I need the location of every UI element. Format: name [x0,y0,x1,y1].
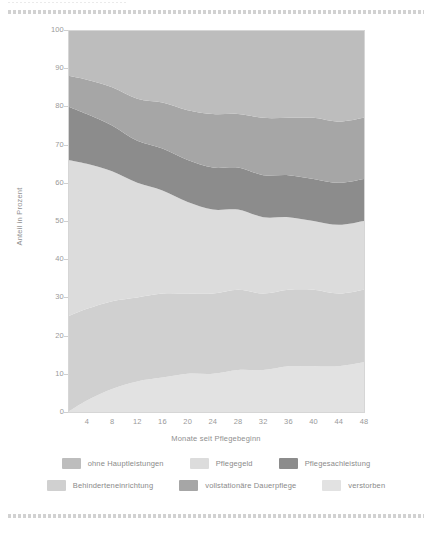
legend-swatch-icon [322,480,341,491]
stacked-area-svg [68,30,364,412]
legend-row-2: Behinderteneinrichtungvollstationäre Dau… [0,480,432,491]
legend-row-1: ohne HauptleistungenPflegegeldPflegesach… [0,458,432,469]
legend-swatch-icon [62,458,81,469]
x-tick-label: 48 [360,418,369,426]
x-tick-label: 20 [183,418,192,426]
y-tick-label: 40 [32,255,64,263]
axis-bottom-line [68,412,364,413]
legend-label: verstorben [348,481,385,490]
y-tick-mark [64,374,68,375]
y-tick-label: 20 [32,332,64,340]
legend-item[interactable]: ohne Hauptleistungen [62,458,164,469]
x-tick-label: 24 [208,418,217,426]
legend-swatch-icon [190,458,209,469]
axis-right-line [364,30,365,413]
legend-label: Pflegesachleistung [305,459,371,468]
y-tick-label: 0 [32,408,64,416]
legend-label: Behinderteneinrichtung [73,481,153,490]
y-tick-label: 10 [32,370,64,378]
legend-swatch-icon [47,480,66,491]
y-tick-mark [64,259,68,260]
legend-label: Pflegegeld [216,459,253,468]
plot-region [68,30,364,412]
y-tick-label: 30 [32,294,64,302]
y-tick-mark [64,412,68,413]
y-tick-label: 60 [32,179,64,187]
x-tick-label: 36 [284,418,293,426]
x-tick-label: 28 [234,418,243,426]
y-tick-label: 50 [32,217,64,225]
decorative-rule-top [8,10,424,14]
y-tick-mark [64,68,68,69]
axis-top-line [68,30,364,31]
y-axis-label: Anteil in Prozent [15,162,24,272]
x-tick-label: 40 [309,418,318,426]
y-tick-label: 70 [32,141,64,149]
legend-swatch-icon [179,480,198,491]
decorative-ghost-line [8,2,128,3]
legend-item[interactable]: Pflegesachleistung [279,458,371,469]
x-tick-label: 12 [133,418,142,426]
x-tick-label: 16 [158,418,167,426]
chart-page: 0102030405060708090100 48121620242832364… [0,0,432,536]
x-axis-label: Monate seit Pflegebeginn [68,434,364,443]
legend-swatch-icon [279,458,298,469]
y-tick-mark [64,221,68,222]
legend-item[interactable]: Pflegegeld [190,458,253,469]
chart-legend: ohne HauptleistungenPflegegeldPflegesach… [0,458,432,502]
y-tick-mark [64,30,68,31]
legend-item[interactable]: verstorben [322,480,385,491]
legend-item[interactable]: Behinderteneinrichtung [47,480,153,491]
y-tick-label: 100 [32,26,64,34]
y-tick-mark [64,183,68,184]
y-tick-label: 90 [32,64,64,72]
x-tick-label: 32 [259,418,268,426]
y-tick-mark [64,106,68,107]
axis-left-line [68,30,69,412]
legend-label: ohne Hauptleistungen [88,459,164,468]
y-tick-mark [64,145,68,146]
y-tick-mark [64,297,68,298]
x-tick-label: 8 [110,418,114,426]
legend-item[interactable]: vollstationäre Dauerpflege [179,480,296,491]
x-tick-label: 44 [334,418,343,426]
decorative-rule-bottom [8,514,424,518]
chart-area: 0102030405060708090100 48121620242832364… [0,22,432,422]
legend-label: vollstationäre Dauerpflege [205,481,296,490]
x-tick-label: 4 [85,418,89,426]
y-tick-label: 80 [32,103,64,111]
y-tick-mark [64,336,68,337]
